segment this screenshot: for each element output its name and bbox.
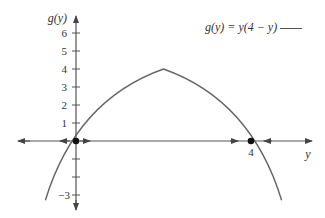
legend-label: g(y) = y(4 − y) [205, 20, 277, 34]
legend: g(y) = y(4 − y) [205, 20, 302, 35]
y-tick-4: 4 [62, 63, 68, 75]
y-tick-minus-3: −3 [58, 189, 70, 201]
equilibrium-point-0 [73, 138, 80, 145]
y-tick-2: 2 [62, 99, 68, 111]
y-tick-5: 5 [62, 45, 68, 57]
phase-line-chart: 6 5 4 3 2 1 −3 g(y) y 4 g(y) = y(4 − y) [0, 0, 325, 218]
legend-swatch [280, 28, 302, 29]
curve-g [45, 69, 281, 200]
y-axis-label: g(y) [48, 11, 67, 25]
equilibrium-point-4 [248, 138, 255, 145]
y-tick-1: 1 [62, 117, 68, 129]
y-tick-6: 6 [62, 27, 68, 39]
x-tick-4: 4 [248, 146, 254, 158]
x-axis-label: y [304, 147, 311, 161]
y-tick-3: 3 [62, 81, 68, 93]
